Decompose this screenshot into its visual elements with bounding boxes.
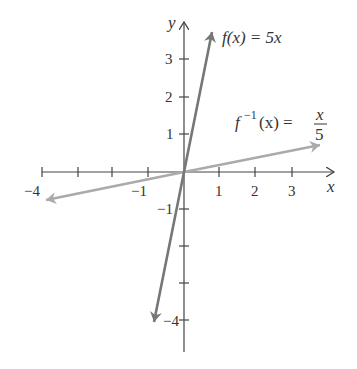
f-line-lower xyxy=(154,172,184,322)
x-tick-label: −4 xyxy=(24,183,40,199)
y-tick-label: −1 xyxy=(157,201,173,217)
x-tick-label: 2 xyxy=(251,183,259,199)
f-line xyxy=(184,32,212,172)
svg-text:x: x xyxy=(315,105,324,124)
svg-text:(x) =: (x) = xyxy=(259,113,293,132)
x-tick-label: −1 xyxy=(131,183,147,199)
svg-text:5: 5 xyxy=(315,125,324,144)
y-tick-label: 2 xyxy=(165,89,173,105)
x-tick-label: 1 xyxy=(215,183,223,199)
y-tick-label: 1 xyxy=(166,126,174,142)
svg-text:f: f xyxy=(235,113,242,132)
finv-line-left xyxy=(46,172,184,200)
chart: −4 −1 1 2 3 x 3 2 1 −1 −4 y f(x) = 5x xyxy=(0,0,357,369)
finv-line xyxy=(184,145,320,172)
y-tick-label: −4 xyxy=(163,313,179,329)
x-tick-label: 3 xyxy=(288,183,296,199)
plot-svg: −4 −1 1 2 3 x 3 2 1 −1 −4 y f(x) = 5x xyxy=(0,0,357,369)
y-tick-label: 3 xyxy=(165,51,173,67)
x-axis-label: x xyxy=(326,177,335,196)
y-axis: 3 2 1 −1 −4 y xyxy=(157,13,189,352)
svg-text:−1: −1 xyxy=(244,108,257,122)
finv-label: f −1 (x) = x 5 xyxy=(235,105,327,144)
y-axis-label: y xyxy=(166,13,176,32)
f-label: f(x) = 5x xyxy=(222,28,282,47)
